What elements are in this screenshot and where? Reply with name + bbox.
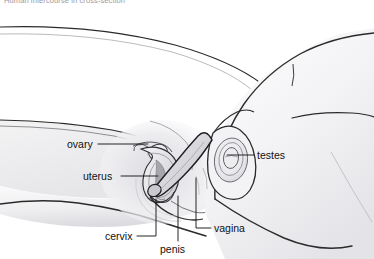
caption-strip: Human intercourse in cross-section	[0, 0, 374, 7]
caption-text: Human intercourse in cross-section	[4, 0, 125, 5]
label-penis: penis	[160, 244, 185, 255]
anatomy-diagram-screenshot: Human intercourse in cross-section	[0, 0, 374, 259]
label-ovary: ovary	[67, 139, 93, 150]
label-uterus: uterus	[83, 171, 112, 182]
label-vagina: vagina	[214, 223, 245, 234]
female-abdomen-contour	[0, 27, 262, 84]
label-testes: testes	[257, 150, 285, 161]
female-abdomen-contour-inner	[0, 34, 252, 90]
label-cervix: cervix	[105, 231, 132, 242]
anatomical-illustration	[0, 0, 374, 259]
